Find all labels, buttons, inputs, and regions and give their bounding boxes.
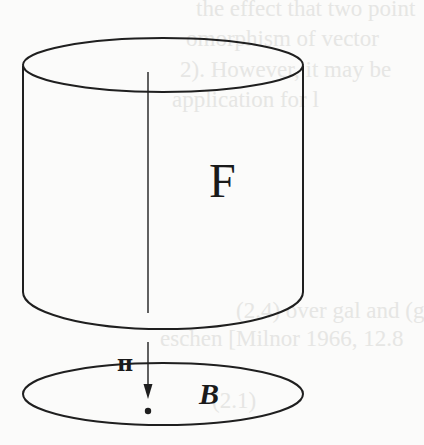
projection-arrow-head bbox=[144, 384, 153, 399]
projection-label: π bbox=[117, 350, 133, 376]
base-space-label: B bbox=[199, 378, 219, 410]
cylinder-top-ellipse bbox=[23, 38, 303, 92]
base-point-dot bbox=[145, 408, 151, 414]
total-space-label: F bbox=[209, 157, 236, 205]
cylinder-bottom-arc bbox=[23, 292, 303, 329]
base-space-ellipse bbox=[23, 363, 303, 425]
